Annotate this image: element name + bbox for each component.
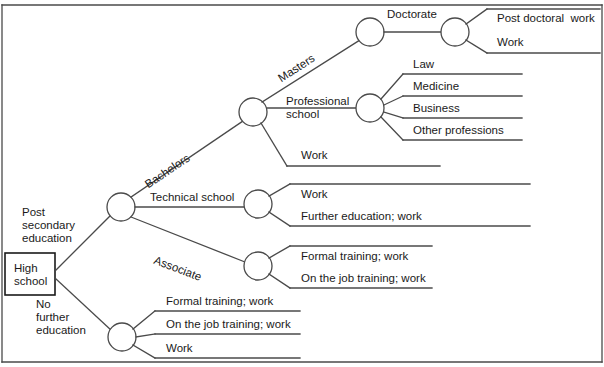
edge-other-professions — [381, 117, 403, 140]
no-further-line1: No — [36, 298, 51, 310]
leaf-label-technical-work: Work — [301, 188, 328, 201]
high-school-label: Highschool — [14, 262, 47, 288]
high-school-label-line1: High — [14, 262, 38, 274]
leaf-label-nofurther-work: Work — [166, 342, 193, 355]
post-secondary-line3: education — [22, 232, 72, 244]
branch-label-doctorate: Doctorate — [387, 8, 437, 21]
node-technical-school — [244, 190, 272, 218]
leaf-label-associate-formal: Formal training; work — [301, 250, 408, 263]
branch-label-technical-school: Technical school — [150, 191, 234, 204]
professional-school-line1: Professional — [286, 95, 349, 107]
node-no-further — [108, 323, 136, 351]
edge-doctorate-work — [466, 40, 487, 53]
high-school-label-line2: school — [14, 275, 47, 287]
edge-nofurther-onjob — [136, 334, 155, 337]
edge-masters — [262, 40, 360, 102]
edge-associate-onjob — [269, 274, 290, 288]
leaf-label-technical-further: Further education; work — [301, 210, 422, 223]
edge-technical-work — [269, 184, 290, 196]
leaf-label-medicine: Medicine — [413, 80, 459, 93]
node-masters — [356, 18, 384, 46]
edge-post-doctoral-work — [466, 9, 487, 24]
leaf-label-other-professions: Other professions — [413, 124, 504, 137]
leaf-label-doctorate-work: Work — [497, 36, 524, 49]
leaf-label-business: Business — [413, 102, 460, 115]
branch-label-post-secondary: Postsecondaryeducation — [22, 206, 75, 245]
branch-label-professional-school: Professionalschool — [286, 95, 349, 121]
edge-associate — [131, 217, 245, 262]
edge-nofurther-formal — [133, 311, 155, 329]
edge-nofurther-work — [133, 345, 155, 358]
diagram-canvas: Highschool Postsecondaryeducation Nofurt… — [0, 0, 604, 367]
post-secondary-line1: Post — [22, 206, 45, 218]
leaf-label-nofurther-onjob: On the job training; work — [166, 318, 291, 331]
edge-bachelors-work — [261, 123, 287, 166]
leaf-label-law: Law — [413, 58, 434, 71]
edge-technical-further — [269, 212, 290, 226]
node-doctorate — [441, 18, 469, 46]
edge-associate-formal — [269, 246, 290, 258]
professional-school-line2: school — [286, 108, 319, 120]
no-further-line2: further — [36, 311, 69, 323]
edge-medicine — [384, 96, 403, 105]
leaf-label-associate-onjob: On the job training; work — [301, 272, 426, 285]
edge-law — [381, 74, 403, 99]
post-secondary-line2: secondary — [22, 219, 75, 231]
leaf-label-post-doctoral-work: Post doctoral work — [497, 12, 595, 25]
decision-tree-graphic — [0, 0, 604, 367]
no-further-line3: education — [36, 324, 86, 336]
leaf-label-nofurther-formal: Formal training; work — [166, 295, 273, 308]
node-associate — [244, 252, 272, 280]
node-professional-school — [356, 94, 384, 122]
branch-label-no-further: Nofurthereducation — [36, 298, 86, 337]
edge-business — [384, 112, 403, 118]
leaf-label-bachelors-work: Work — [301, 149, 328, 162]
